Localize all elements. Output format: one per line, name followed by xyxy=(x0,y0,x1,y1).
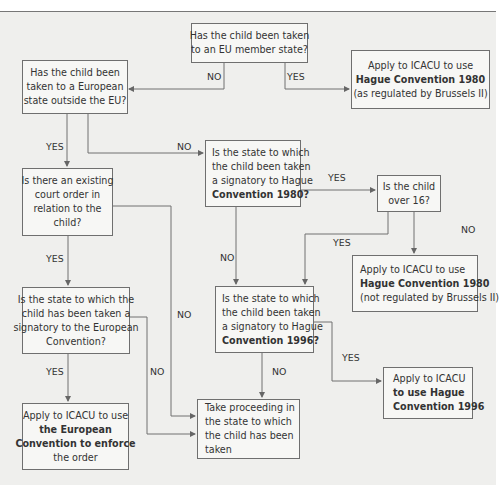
edge-label-yes: YES xyxy=(46,366,64,377)
node-court-order-question: Is there an existing court order in rela… xyxy=(22,168,113,236)
node-text: court order in xyxy=(35,188,100,202)
node-european-outside-eu-question: Has the child been taken to a European s… xyxy=(22,60,128,114)
edge-label-no: NO xyxy=(220,252,234,263)
node-text: the child been taken xyxy=(222,306,320,320)
node-text: Is the state to which the xyxy=(18,293,134,307)
node-text: (not regulated by Brussels II) xyxy=(360,291,499,305)
node-text: (as regulated by Brussels II) xyxy=(353,87,487,101)
node-text: signatory to the European xyxy=(13,321,138,335)
node-text: a signatory to Hague xyxy=(212,174,313,188)
node-apply-hague-1996: Apply to ICACU to use Hague Convention 1… xyxy=(383,367,473,419)
node-text: taken xyxy=(205,443,232,457)
edge-label-yes: YES xyxy=(46,141,64,152)
node-text: to use Hague xyxy=(393,386,465,400)
edge-label-yes: YES xyxy=(46,253,64,264)
node-text: the order xyxy=(53,451,97,465)
node-apply-european-convention: Apply to ICACU to use the European Conve… xyxy=(22,403,129,470)
edge-label-no: NO xyxy=(207,71,221,82)
node-text: Is the child xyxy=(383,180,435,194)
edge-label-yes: YES xyxy=(328,172,346,183)
node-text: Convention 1996? xyxy=(222,334,319,348)
edge-label-no: NO xyxy=(461,224,475,235)
node-text: the child been taken xyxy=(212,160,310,174)
node-text: to an EU member state? xyxy=(191,43,308,57)
edge-label-yes: YES xyxy=(333,237,351,248)
node-text: over 16? xyxy=(388,194,430,208)
node-text: a signatory to Hague xyxy=(222,320,323,334)
node-take-proceeding: Take proceeding in the state to which th… xyxy=(197,399,300,459)
edge-label-no: NO xyxy=(272,366,286,377)
node-text: the child has been xyxy=(205,429,294,443)
node-text: Take proceeding in xyxy=(205,401,295,415)
edge-label-no: NO xyxy=(150,366,164,377)
node-signatory-hague-1996-question: Is the state to which the child been tak… xyxy=(215,286,314,353)
node-over-16-question: Is the child over 16? xyxy=(377,175,441,212)
node-signatory-hague-1980-question: Is the state to which the child been tak… xyxy=(205,140,301,207)
node-text: taken to a European xyxy=(26,80,123,94)
node-text: the state to which xyxy=(205,415,292,429)
node-text: child? xyxy=(54,216,82,230)
node-text: Apply to ICACU to use xyxy=(368,59,473,73)
node-eu-member-question: Has the child been taken to an EU member… xyxy=(191,23,308,63)
edge-label-no: NO xyxy=(177,309,191,320)
edge-label-no: NO xyxy=(177,141,191,152)
node-text: Apply to ICACU to use xyxy=(23,409,128,423)
node-text: Has the child been taken xyxy=(190,29,310,43)
node-text: Is the state to which xyxy=(212,146,310,160)
node-text: Hague Convention 1980 xyxy=(356,73,485,87)
node-signatory-european-question: Is the state to which the child has been… xyxy=(22,287,130,354)
edge-label-yes: YES xyxy=(287,71,305,82)
node-text: Apply to ICACU xyxy=(393,372,465,386)
node-text: state outside the EU? xyxy=(24,94,127,108)
node-apply-hague-1980-not-regulated: Apply to ICACU to use Hague Convention 1… xyxy=(352,255,478,312)
node-text: Is there an existing xyxy=(22,174,114,188)
node-text: Hague Convention 1980 xyxy=(360,277,489,291)
node-text: relation to the xyxy=(33,202,101,216)
node-text: Is the state to which xyxy=(222,292,320,306)
node-text: Convention 1996 xyxy=(393,400,484,414)
node-text: Convention? xyxy=(46,335,106,349)
node-text: Convention 1980? xyxy=(212,188,309,202)
node-apply-hague-1980-regulated: Apply to ICACU to use Hague Convention 1… xyxy=(351,50,490,109)
edge-label-yes: YES xyxy=(342,352,360,363)
node-text: Apply to ICACU to use xyxy=(360,263,465,277)
node-text: Has the child been xyxy=(30,66,120,80)
node-text: child has been taken a xyxy=(22,307,131,321)
node-text: Convention to enforce xyxy=(15,437,135,451)
node-text: the European xyxy=(39,423,112,437)
